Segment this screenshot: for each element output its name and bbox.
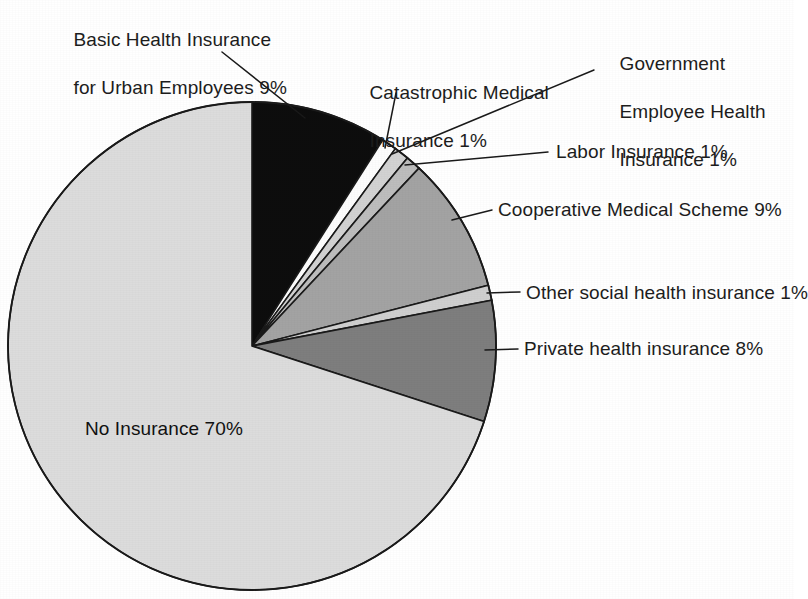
label-private-health-insurance: Private health insurance 8% bbox=[524, 337, 763, 361]
label-basic-health-insurance-line1: Basic Health Insurance bbox=[74, 29, 272, 50]
label-government-employee-health-insurance-line2: Employee Health bbox=[620, 101, 766, 122]
label-catastrophic-medical-insurance: Catastrophic Medical Insurance 1% bbox=[348, 57, 549, 177]
label-labor-insurance: Labor Insurance 1% bbox=[556, 140, 728, 164]
leader-line-private-health-insurance bbox=[485, 349, 518, 350]
label-government-employee-health-insurance: Government Employee Health Insurance 1% bbox=[598, 28, 766, 196]
leader-line-other-social-health-insurance bbox=[487, 292, 520, 293]
label-government-employee-health-insurance-line1: Government bbox=[620, 53, 726, 74]
label-catastrophic-medical-insurance-line1: Catastrophic Medical bbox=[370, 82, 549, 103]
label-basic-health-insurance: Basic Health Insurance for Urban Employe… bbox=[52, 4, 287, 124]
label-no-insurance: No Insurance 70% bbox=[85, 417, 243, 441]
label-other-social-health-insurance: Other social health insurance 1% bbox=[526, 281, 808, 305]
label-basic-health-insurance-line2: for Urban Employees 9% bbox=[74, 77, 287, 98]
label-catastrophic-medical-insurance-line2: Insurance 1% bbox=[370, 130, 487, 151]
label-cooperative-medical-scheme: Cooperative Medical Scheme 9% bbox=[498, 198, 782, 222]
